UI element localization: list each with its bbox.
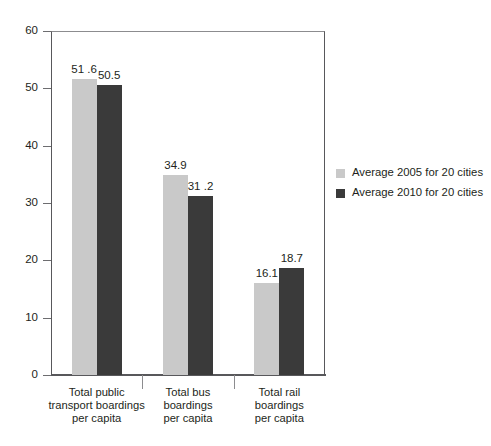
bars-layer [51,31,325,375]
x-axis-category-label: Total railboardingsper capita [221,386,338,426]
legend-label: Average 2005 for 20 cities [352,167,483,178]
bar [279,268,304,375]
y-axis-tick-label: 10 [0,312,38,324]
legend-swatch [336,189,345,198]
legend: Average 2005 for 20 citiesAverage 2010 f… [336,163,488,203]
bar-value-label: 50.5 [89,70,130,82]
bar [97,85,122,375]
bar-value-label: 18.7 [271,253,312,265]
bar-value-label: 31 .2 [180,181,221,193]
legend-swatch [336,169,345,178]
y-axis-tick-label: 60 [0,25,38,37]
bar-value-label: 34.9 [155,160,196,172]
y-axis-tick-label: 0 [0,369,38,381]
legend-label: Average 2010 for 20 cities [352,187,483,198]
bar-value-label: 16.1 [246,268,287,280]
y-axis-tick-label: 30 [0,197,38,209]
legend-item: Average 2010 for 20 cities [336,183,488,203]
y-axis-tick-label: 50 [0,82,38,94]
y-axis-tick-label: 40 [0,140,38,152]
bar [188,196,213,375]
y-axis-tick-label: 20 [0,254,38,266]
bar [254,283,279,375]
category-label-line: boardings [221,399,338,412]
bar-chart: 0102030405060 51 .634.916.150.531 .218.7… [0,0,491,446]
category-label-line: per capita [221,412,338,425]
category-label-line: Total rail [221,386,338,399]
bar [72,79,97,375]
legend-item: Average 2005 for 20 cities [336,163,488,183]
bar [163,175,188,375]
